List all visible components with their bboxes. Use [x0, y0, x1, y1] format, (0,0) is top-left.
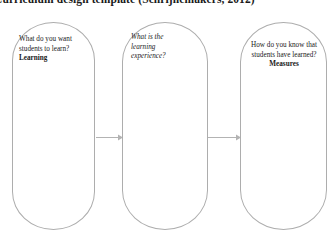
flow-node-learning-text: What do you want students to learn? Lear… [19, 35, 91, 64]
flow-node-learning-question: What do you want students to learn? [19, 35, 72, 53]
flow-node-experience-question: What is the learning experience? [131, 33, 166, 60]
flow-node-measures-text: How do you know that students have learn… [244, 41, 324, 70]
arrow-experience-to-measures [208, 133, 241, 142]
diagram-canvas: Curriculum design template (Schrijnemake… [0, 0, 334, 235]
arrow-learning-to-experience [96, 133, 123, 142]
flow-node-measures-question: How do you know that students have learn… [251, 41, 317, 59]
flow-node-experience-text: What is the learning experience? [131, 33, 189, 62]
page-title-clipped: Curriculum design template (Schrijnemake… [0, 0, 334, 8]
flow-node-measures-accent: Measures [269, 60, 298, 68]
flow-node-learning-accent: Learning [19, 54, 47, 62]
page-title: Curriculum design template (Schrijnemake… [0, 0, 255, 5]
